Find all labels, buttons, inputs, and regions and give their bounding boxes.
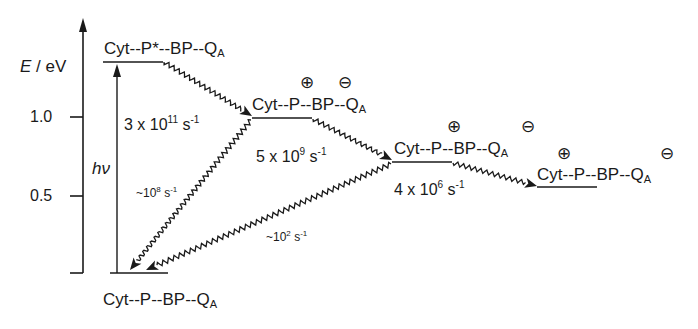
state-label-excited: Cyt--P*--BP--QA xyxy=(104,40,225,59)
state-label-p-plus-bp-minus: Cyt--P--BP--QA xyxy=(252,96,366,115)
minus-charge-icon: ⊖ xyxy=(338,74,352,91)
plus-charge-icon: ⊕ xyxy=(447,118,461,135)
energy-axis xyxy=(70,18,87,273)
arrowhead-icon xyxy=(379,150,392,160)
arrowhead-icon xyxy=(130,258,141,271)
arrow-excited-to-bp xyxy=(164,62,241,112)
minus-charge-icon: ⊖ xyxy=(521,118,535,135)
excitation-label: hν xyxy=(92,160,110,177)
rate-label-qa-recombination: ~102 s-1 xyxy=(266,230,307,243)
rate-label-cyt-reduction: 4 x 106 s-1 xyxy=(394,180,465,198)
transition-arrows xyxy=(130,62,537,270)
arrowhead-icon xyxy=(524,178,537,188)
rate-label-charge-separation: 3 x 1011 s-1 xyxy=(124,115,199,133)
excitation-arrow xyxy=(113,64,121,273)
rate-label-bp-to-qa: 5 x 109 s-1 xyxy=(256,147,327,165)
rate-label-bp-recombination: ~108 s-1 xyxy=(136,186,177,199)
minus-charge-icon: ⊖ xyxy=(660,145,674,162)
state-label-cyt-plus-qa-minus: Cyt--P--BP--QA xyxy=(537,166,651,185)
tick-label-1-0: 1.0 xyxy=(30,109,52,125)
plus-charge-icon: ⊕ xyxy=(300,74,314,91)
arrow-qa-recombination xyxy=(157,162,391,265)
state-label-p-plus-qa-minus: Cyt--P--BP--QA xyxy=(394,140,508,159)
axis-title: E / eV xyxy=(20,58,66,75)
state-label-ground: Cyt--P--BP--QA xyxy=(103,291,217,310)
tick-label-0-5: 0.5 xyxy=(30,188,52,204)
plus-charge-icon: ⊕ xyxy=(557,145,571,162)
